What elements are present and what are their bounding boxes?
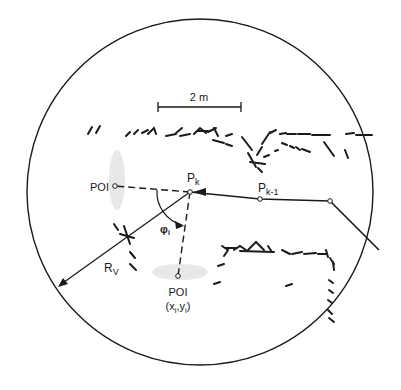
path-arrowhead (193, 188, 206, 196)
robot-path (190, 188, 379, 250)
label-poi-coords: (xi,yi) (166, 300, 191, 315)
navigation-diagram: 2 m (0, 0, 401, 390)
label-pk: Pk (187, 171, 200, 187)
point-poi-left (113, 184, 118, 189)
label-radius: RV (104, 261, 119, 277)
radius-arrowhead (58, 278, 68, 287)
point-poi-bottom (176, 274, 181, 279)
point-pk (188, 190, 193, 195)
label-poi-left: POI (90, 181, 109, 193)
point-pk-minus-1 (258, 197, 263, 202)
label-angle-phi: φi (160, 223, 170, 236)
label-pk-minus-1: Pk-1 (258, 181, 279, 197)
scale-bar-label: 2 m (190, 91, 208, 103)
label-poi-bottom: POI (169, 286, 188, 298)
scale-bar: 2 m (158, 91, 241, 112)
angle-arrowhead (175, 221, 184, 229)
wall-fragments-lower (114, 224, 334, 322)
point-path-corner (328, 199, 333, 204)
wall-fragments-upper (88, 126, 372, 172)
